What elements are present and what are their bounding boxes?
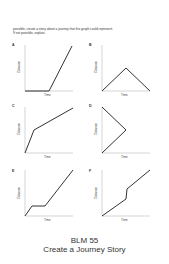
graph-c-axes bbox=[25, 107, 73, 153]
footer-title: Create a Journey Story bbox=[0, 245, 169, 254]
graphs-canvas bbox=[0, 0, 169, 264]
graph-f-axes bbox=[102, 170, 150, 216]
graph-a-axes bbox=[25, 45, 73, 91]
graph-c-line bbox=[25, 108, 73, 153]
footer-code: BLM 55 bbox=[0, 236, 169, 245]
graph-e-line bbox=[25, 170, 73, 216]
graph-f-line bbox=[102, 170, 150, 216]
graph-b-line bbox=[102, 68, 150, 91]
graph-d-line bbox=[102, 107, 126, 153]
graph-a-line bbox=[25, 46, 72, 91]
graph-e-axes bbox=[25, 170, 73, 216]
